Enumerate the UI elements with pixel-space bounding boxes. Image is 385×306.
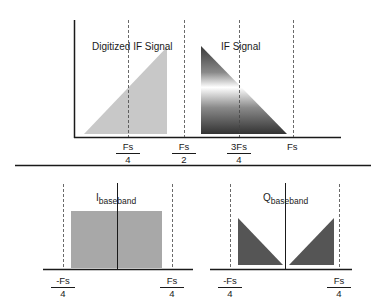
tick-fs-over-4: Fs 4 — [116, 142, 140, 165]
q-tick-neg-fs-over-4: -Fs 4 — [218, 276, 242, 299]
i-baseband-label: Ibaseband — [96, 193, 136, 203]
i-tick-fs-over-4: Fs 4 — [160, 276, 184, 299]
digitized-if-triangle — [84, 47, 167, 134]
top-spectrum-panel — [74, 20, 341, 138]
tick-fs-over-2: Fs 2 — [172, 142, 196, 165]
i-baseband-rect — [71, 211, 162, 268]
q-right-triangle — [289, 218, 334, 265]
q-baseband-label: Qbaseband — [263, 193, 308, 203]
if-signal-triangle — [201, 46, 287, 134]
q-left-triangle — [238, 218, 283, 265]
if-signal-label: IF Signal — [221, 42, 260, 52]
digitized-if-label: Digitized IF Signal — [92, 42, 173, 52]
i-tick-neg-fs-over-4: -Fs 4 — [51, 276, 75, 299]
q-tick-fs-over-4: Fs 4 — [327, 276, 351, 299]
tick-3fs-over-4: 3Fs 4 — [227, 142, 251, 165]
tick-fs: Fs — [287, 142, 298, 152]
